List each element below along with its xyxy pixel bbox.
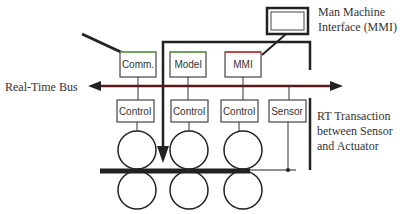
rollers-upper xyxy=(118,131,262,169)
rollers-lower xyxy=(118,171,262,209)
control-box-3: Control xyxy=(221,100,258,122)
bus-label: Real-Time Bus xyxy=(5,80,78,94)
rt-label-line1: RT Transaction xyxy=(317,109,390,123)
monitor-icon xyxy=(267,8,308,34)
down-arrow-icon xyxy=(157,146,169,163)
svg-text:Sensor: Sensor xyxy=(271,106,303,117)
mmi-title-line1: Man Machine xyxy=(318,5,385,19)
svg-text:Control: Control xyxy=(119,106,151,117)
control-box-2: Control xyxy=(171,100,208,122)
svg-text:Control: Control xyxy=(223,106,255,117)
mmi-box: MMI xyxy=(225,52,261,77)
distributed-control-diagram: Comm. Model MMI Control Control Control … xyxy=(0,0,403,214)
svg-text:Control: Control xyxy=(173,106,205,117)
svg-text:Model: Model xyxy=(174,59,201,70)
rt-label-line2: between Sensor xyxy=(317,124,393,138)
comm-box: Comm. xyxy=(120,52,156,77)
external-link-line xyxy=(82,34,123,53)
rt-label-line3: and Actuator xyxy=(317,139,379,153)
mmi-title-line2: Interface (MMI) xyxy=(318,20,397,34)
control-box-1: Control xyxy=(117,100,154,122)
svg-text:Comm.: Comm. xyxy=(122,59,154,70)
sensor-box: Sensor xyxy=(269,100,306,122)
svg-text:MMI: MMI xyxy=(233,59,252,70)
model-box: Model xyxy=(170,52,206,77)
